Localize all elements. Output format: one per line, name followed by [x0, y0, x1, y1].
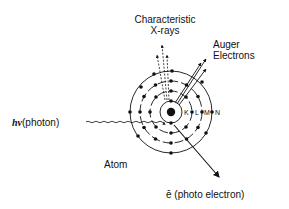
characteristic-line1: Characteristic [118, 14, 212, 25]
shell-label-k: K [184, 107, 189, 118]
auger-line1: Auger [213, 39, 255, 50]
auger-line2: Electrons [213, 50, 255, 61]
photoelectron-label: ē (photo electron) [166, 189, 244, 200]
shell-label-n: N [215, 107, 220, 118]
characteristic-line2: X-rays [118, 25, 212, 36]
characteristic-xrays-label: Characteristic X-rays [118, 14, 212, 36]
photon-text: (photon) [22, 117, 59, 128]
photon-label: hν(photon) [12, 117, 59, 128]
auger-electrons-label: Auger Electrons [213, 39, 255, 61]
atom-label: Atom [104, 159, 127, 170]
photon-symbol: hν [12, 117, 22, 128]
nucleus [167, 108, 175, 116]
photoelectron-arrow [174, 125, 219, 177]
shell-label-m: M [204, 107, 210, 118]
shell-label-l: L [195, 107, 199, 118]
